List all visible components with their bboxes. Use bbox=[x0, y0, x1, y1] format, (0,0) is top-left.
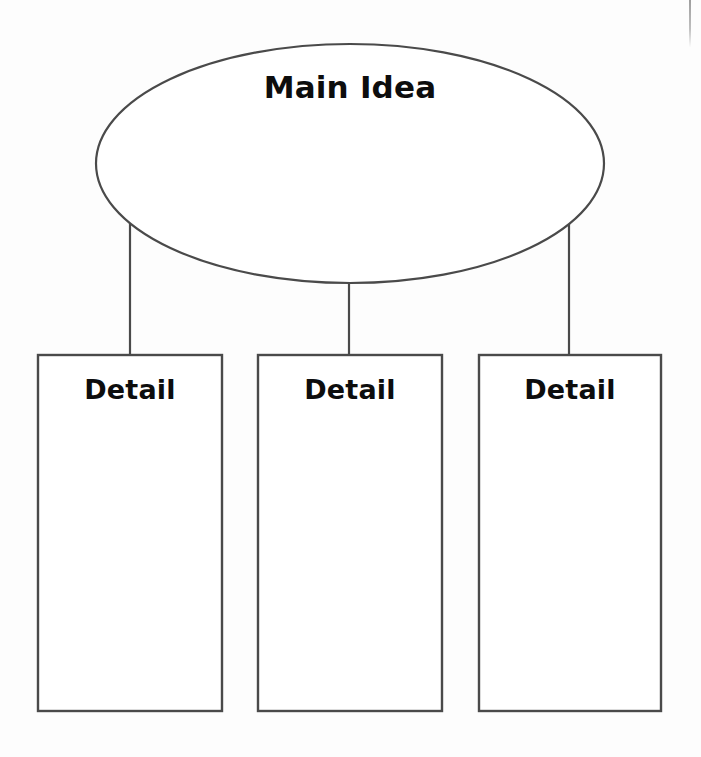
page-edge-artifact bbox=[689, 0, 691, 48]
detail-box-2[interactable] bbox=[258, 355, 442, 711]
detail-box-1[interactable] bbox=[38, 355, 222, 711]
detail-label-1: Detail bbox=[37, 374, 223, 406]
main-idea-label: Main Idea bbox=[96, 68, 604, 106]
detail-label-3: Detail bbox=[478, 374, 662, 406]
detail-label-2: Detail bbox=[257, 374, 443, 406]
worksheet-canvas: Main Idea Detail Detail Detail bbox=[0, 0, 701, 757]
detail-box-3[interactable] bbox=[479, 355, 661, 711]
